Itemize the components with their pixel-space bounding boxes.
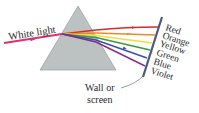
red-ray [96,27,159,30]
orange-ray [96,33,155,35]
screen-label-line1: Wall or [85,82,115,93]
color-labels: Red Orange Yellow Green Blue Violet [149,22,191,82]
screen-leader-line [121,75,144,88]
prism-dispersion-diagram: White light Red Orange Yellow Green Blue… [0,0,199,113]
screen-label-line2: screen [87,94,113,105]
color-label-violet: Violet [149,65,174,82]
